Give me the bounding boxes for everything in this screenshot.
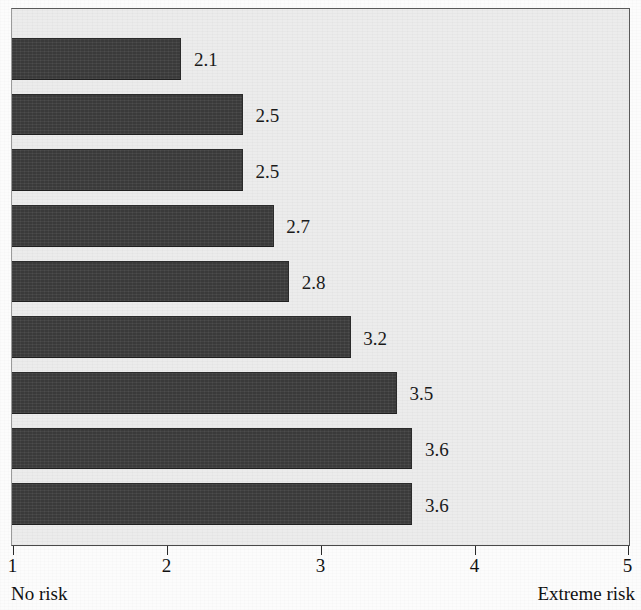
scale-min-caption: No risk (11, 583, 67, 604)
bar-value-label: 3.5 (410, 384, 434, 403)
bar (12, 483, 412, 524)
x-axis-tick-label: 3 (316, 556, 326, 576)
bar (12, 261, 289, 302)
bar (12, 94, 243, 135)
bar (12, 316, 351, 357)
bar-value-label: 2.5 (256, 106, 280, 125)
scale-max-caption: Extreme risk (537, 583, 635, 604)
x-axis-tick-label: 2 (162, 556, 172, 576)
x-axis-tick-label: 1 (8, 556, 18, 576)
bar-value-label: 3.2 (363, 329, 387, 348)
bar-value-label: 3.6 (425, 440, 449, 459)
bar-value-label: 2.8 (302, 273, 326, 292)
x-axis-tick (628, 546, 630, 555)
bar (12, 372, 397, 413)
bar-value-label: 3.6 (425, 496, 449, 515)
x-axis-tick (167, 546, 169, 555)
bar (12, 428, 412, 469)
x-axis-tick-label: 4 (470, 556, 480, 576)
x-axis-tick-label: 5 (623, 556, 633, 576)
x-axis-tick (475, 546, 477, 555)
bar (12, 205, 274, 246)
bar-value-label: 2.1 (194, 50, 218, 69)
x-axis-tick (13, 546, 15, 555)
bar (12, 149, 243, 190)
bar-value-label: 2.5 (256, 162, 280, 181)
bar-value-label: 2.7 (286, 217, 310, 236)
x-axis-tick (321, 546, 323, 555)
bar (12, 38, 181, 79)
